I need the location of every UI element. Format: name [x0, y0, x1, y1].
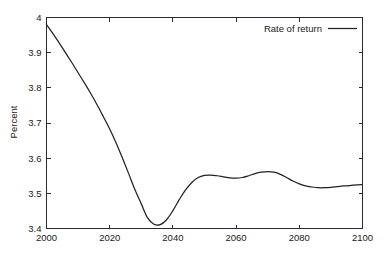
- x-axis-tick-labels: 200020202040206020802100: [36, 232, 373, 243]
- rate-of-return-chart: 3.43.53.63.73.83.94 20002020204020602080…: [0, 0, 386, 268]
- y-tick-label: 4: [36, 12, 41, 23]
- y-tick-label: 3.5: [28, 188, 41, 199]
- y-axis-tick-labels: 3.43.53.63.73.83.94: [28, 12, 41, 234]
- x-tick-label: 2080: [289, 232, 310, 243]
- legend-label-rate-of-return: Rate of return: [264, 23, 322, 34]
- x-tick-label: 2020: [99, 232, 120, 243]
- x-tick-label: 2100: [352, 232, 373, 243]
- chart-canvas: 3.43.53.63.73.83.94 20002020204020602080…: [0, 0, 386, 268]
- y-tick-label: 3.8: [28, 82, 41, 93]
- x-tick-label: 2060: [226, 232, 247, 243]
- x-tick-label: 2040: [162, 232, 183, 243]
- y-tick-label: 3.9: [28, 47, 41, 58]
- series-line-rate-of-return: [47, 25, 363, 226]
- data-series-rate-of-return: [47, 25, 363, 226]
- plot-frame: [47, 18, 363, 229]
- x-tick-label: 2000: [36, 232, 57, 243]
- y-tick-label: 3.7: [28, 117, 41, 128]
- axis-tick-marks: [47, 18, 363, 229]
- y-tick-label: 3.6: [28, 153, 41, 164]
- y-axis-title: Percent: [8, 105, 19, 138]
- chart-legend: Rate of return: [264, 23, 357, 34]
